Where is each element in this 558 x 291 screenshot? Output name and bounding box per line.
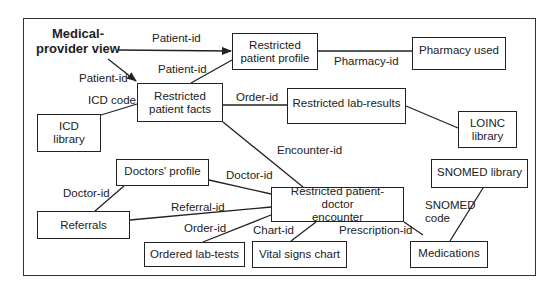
box-label: patient profile	[240, 52, 309, 65]
box-referrals: Referrals	[37, 211, 130, 239]
box-restricted-patient-profile: Restricted patient profile	[232, 33, 318, 70]
box-icd-library: ICD library	[37, 114, 101, 152]
edge-label-view-facts: Patient-id	[79, 72, 128, 85]
edge-label-view-profile: Patient-id	[152, 32, 201, 45]
box-label: LOINC	[470, 117, 505, 130]
box-pharmacy-used: Pharmacy used	[412, 37, 506, 70]
edge-lab-loinc	[406, 106, 458, 128]
edge-label-referrals-encounter: Referral-id	[171, 201, 225, 214]
edge-doctors-encounter	[209, 180, 271, 194]
box-medications: Medications	[410, 241, 488, 268]
box-label: encounter	[312, 211, 363, 224]
box-label: Medications	[418, 247, 479, 260]
edge-label-facts-encounter: Encounter-id	[277, 144, 342, 157]
view-title-line2: provider view	[36, 41, 120, 56]
view-title: Medical- provider view	[36, 26, 120, 56]
box-label: patient facts	[149, 103, 211, 116]
box-label: Doctors' profile	[124, 165, 200, 178]
box-label: Vital signs chart	[259, 248, 340, 261]
edge-label-vitals-encounter: Chart-id	[253, 224, 294, 237]
edge-label-medications-encounter: Prescription-id	[339, 224, 413, 237]
box-label: ICD	[59, 120, 79, 133]
box-restricted-lab-results: Restricted lab-results	[287, 88, 406, 124]
box-vital-signs-chart: Vital signs chart	[252, 241, 347, 268]
box-restricted-patient-facts: Restricted patient facts	[137, 83, 223, 122]
edge-label-labtests-encounter: Order-id	[184, 222, 226, 235]
box-label: library	[53, 133, 84, 146]
view-title-line1: Medical-	[36, 26, 120, 41]
edge-view-profile	[118, 50, 231, 51]
box-restricted-patient-doctor-encounter: Restricted patient-doctor encounter	[271, 187, 404, 222]
box-label: Restricted	[249, 39, 301, 52]
box-label: Restricted lab-results	[292, 97, 400, 110]
edge-label-snomed-medications-1: SNOMED	[425, 199, 475, 212]
box-doctors-profile: Doctors' profile	[116, 159, 209, 186]
box-label: Referrals	[60, 219, 107, 232]
box-loinc-library: LOINC library	[458, 111, 517, 148]
edge-label-profile-pharmacy: Pharmacy-id	[334, 55, 399, 68]
edge-vitals-encounter	[291, 222, 316, 241]
box-label: Restricted	[154, 90, 206, 103]
box-label: library	[472, 130, 503, 143]
edge-label-facts-lab: Order-id	[236, 91, 278, 104]
box-label: SNOMED library	[437, 166, 522, 179]
edge-label-facts-icd: ICD code	[88, 94, 136, 107]
box-label: Restricted patient-doctor	[275, 185, 400, 211]
edge-label-doctors-referrals: Doctor-id	[63, 187, 110, 200]
edge-label-snomed-medications-2: code	[425, 212, 450, 225]
box-label: Pharmacy used	[419, 44, 499, 57]
edge-label-doctors-encounter: Doctor-id	[226, 169, 273, 182]
box-label: Ordered lab-tests	[150, 248, 239, 261]
edge-snomed-medications	[450, 188, 483, 241]
edge-label-facts-profile: Patient-id	[158, 63, 207, 76]
box-snomed-library: SNOMED library	[431, 159, 528, 188]
box-ordered-lab-tests: Ordered lab-tests	[144, 242, 245, 267]
